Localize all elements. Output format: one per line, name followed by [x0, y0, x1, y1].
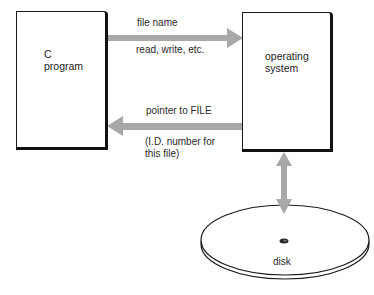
operating-system-label: operating system — [265, 50, 309, 74]
c-program-box — [16, 11, 108, 150]
c-program-label: C program — [44, 48, 83, 72]
request-label-below: read, write, etc. — [136, 44, 204, 56]
response-label-above: pointer to FILE — [146, 105, 212, 117]
request-label-above: file name — [137, 17, 178, 29]
operating-system-box — [242, 12, 333, 152]
response-arrow — [107, 116, 243, 136]
disk-label: disk — [273, 256, 291, 268]
response-label-below: (I.D. number for this file) — [145, 136, 215, 160]
